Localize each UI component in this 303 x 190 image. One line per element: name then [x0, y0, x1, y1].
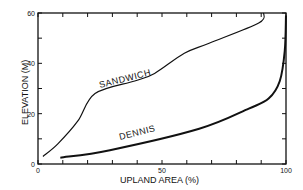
series-line-sandwich — [43, 13, 264, 156]
series-label-dennis: DENNIS — [118, 123, 156, 142]
y-tick-label: 60 — [27, 10, 35, 17]
axes: 0501000204060 — [27, 10, 292, 174]
chart: 0501000204060 SANDWICH DENNIS UPLAND ARE… — [0, 0, 303, 190]
y-tick-label: 0 — [31, 161, 35, 168]
x-axis-label: UPLAND AREA (%) — [120, 175, 199, 185]
series-lines — [43, 13, 286, 158]
plot-frame — [38, 13, 286, 164]
y-axis-label: ELEVATION (M) — [20, 60, 30, 125]
series-label-sandwich: SANDWICH — [98, 67, 152, 90]
x-tick-label: 50 — [158, 167, 166, 174]
x-tick-label: 0 — [36, 167, 40, 174]
x-tick-label: 100 — [280, 167, 292, 174]
series-line-dennis — [60, 16, 286, 158]
